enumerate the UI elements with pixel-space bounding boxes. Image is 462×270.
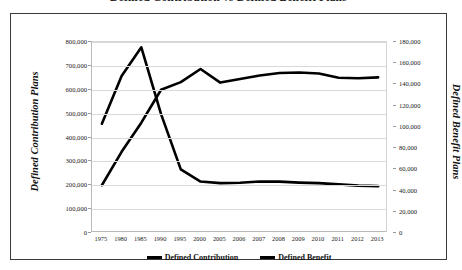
right-tick-label: 40,000 <box>399 186 417 193</box>
gridline <box>92 209 386 210</box>
right-tick-mark <box>393 147 396 148</box>
left-tick-label: 400,000 <box>66 133 87 140</box>
gridline <box>92 90 386 91</box>
right-tick-label: 100,000 <box>399 122 420 129</box>
left-tick-label: 700,000 <box>66 61 87 68</box>
gridline <box>92 138 386 139</box>
x-tick-label: 2008 <box>272 235 285 242</box>
left-tick-label: 100,000 <box>66 205 87 212</box>
x-tick-label: 2013 <box>371 235 384 242</box>
gridline <box>92 161 386 162</box>
x-tick-label: 1980 <box>114 235 127 242</box>
left-tick-mark <box>88 232 91 233</box>
right-tick-mark <box>393 41 396 42</box>
gridline <box>92 66 386 67</box>
right-axis-ticks: 020,00040,00060,00080,000100,000120,0001… <box>393 41 443 232</box>
legend-item[interactable]: Defined Benefit <box>260 253 331 262</box>
right-tick-mark <box>393 168 396 169</box>
right-axis-title: Defined Benefit Plans <box>451 47 462 217</box>
right-tick-label: 60,000 <box>399 165 417 172</box>
x-tick-label: 1995 <box>173 235 186 242</box>
legend-line-swatch <box>260 256 275 259</box>
series-line-defined-contribution <box>102 69 378 185</box>
x-tick-label: 2009 <box>292 235 305 242</box>
left-tick-label: 200,000 <box>66 181 87 188</box>
right-tick-label: 20,000 <box>399 207 417 214</box>
legend-line-swatch <box>147 256 162 259</box>
chart-legend: Defined ContributionDefined Benefit <box>91 253 387 262</box>
right-tick-mark <box>393 126 396 127</box>
x-tick-label: 2010 <box>312 235 325 242</box>
x-tick-label: 2005 <box>213 235 226 242</box>
right-tick-mark <box>393 211 396 212</box>
gridline <box>92 42 386 43</box>
plot-area <box>91 41 387 232</box>
x-tick-label: 1985 <box>134 235 147 242</box>
left-tick-label: 300,000 <box>66 157 87 164</box>
right-tick-mark <box>393 190 396 191</box>
x-tick-label: 2000 <box>193 235 206 242</box>
x-tick-label: 2011 <box>331 235 344 242</box>
chart-frame: Defined Contribution Plans Defined Benef… <box>10 13 447 260</box>
left-tick-label: 500,000 <box>66 109 87 116</box>
right-tick-mark <box>393 62 396 63</box>
right-tick-mark <box>393 105 396 106</box>
right-tick-label: 160,000 <box>399 59 420 66</box>
right-tick-mark <box>393 232 396 233</box>
x-tick-label: 1975 <box>94 235 107 242</box>
series-line-defined-benefit <box>102 47 378 186</box>
gridline <box>92 114 386 115</box>
legend-item[interactable]: Defined Contribution <box>147 253 239 262</box>
x-tick-label: 1990 <box>154 235 167 242</box>
x-tick-label: 2007 <box>252 235 265 242</box>
left-axis-ticks: 0100,000200,000300,000400,000500,000600,… <box>37 41 87 232</box>
left-tick-label: 600,000 <box>66 85 87 92</box>
x-tick-label: 2012 <box>351 235 364 242</box>
right-tick-label: 0 <box>399 229 402 236</box>
gridline <box>92 185 386 186</box>
right-tick-label: 140,000 <box>399 80 420 87</box>
right-tick-label: 80,000 <box>399 144 417 151</box>
left-tick-label: 0 <box>84 229 87 236</box>
right-tick-label: 180,000 <box>399 38 420 45</box>
legend-label: Defined Contribution <box>165 253 239 262</box>
right-tick-label: 120,000 <box>399 101 420 108</box>
x-tick-label: 2006 <box>233 235 246 242</box>
x-axis-ticks: 1975198019851990199520002005200620072008… <box>91 235 387 247</box>
chart-title: Defined Contribution vs Defined Benefit … <box>0 0 457 3</box>
left-tick-label: 800,000 <box>66 38 87 45</box>
right-tick-mark <box>393 83 396 84</box>
legend-label: Defined Benefit <box>278 253 331 262</box>
